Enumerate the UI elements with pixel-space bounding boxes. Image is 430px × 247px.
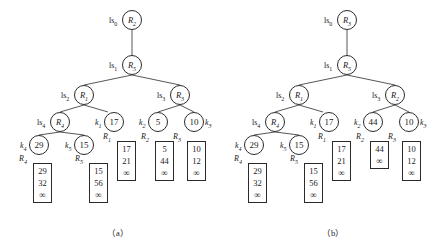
list-label-b-list-r4: R4 — [234, 154, 242, 165]
tree-edge — [373, 105, 395, 112]
list-box-b-list-r4: 2932∞ — [248, 163, 267, 203]
node-b-internal-r1: R1 — [289, 85, 309, 105]
node-b-leaf-44: 44 — [363, 112, 383, 132]
tree-edge — [180, 105, 194, 112]
node-b-leaf-15: 15 — [289, 135, 309, 155]
node-a-internal-r4: R4 — [50, 112, 70, 132]
node-b-root: R3 — [337, 10, 357, 30]
list-cell: 15 — [305, 165, 322, 177]
node-label-a-level1: ls1 — [109, 61, 117, 72]
node-label-a-leaf-17: k1 — [95, 118, 102, 129]
node-a-internal-r3: R3 — [170, 85, 190, 105]
tree-edge — [84, 105, 108, 112]
tree-edge — [395, 105, 409, 112]
node-label-b-leaf-10: k3 — [420, 118, 427, 129]
list-label-a-list-r4: R4 — [19, 154, 27, 165]
list-label-b-list-r3: R3 — [388, 132, 396, 143]
node-b-internal-r2: R2 — [385, 85, 405, 105]
tree-edge — [299, 105, 323, 112]
node-label-b-internal-r1: ls2 — [276, 91, 284, 102]
node-label-a-internal-r4: ls4 — [37, 118, 45, 129]
caption-a: （a） — [107, 226, 129, 238]
list-cell: 44 — [156, 155, 173, 167]
list-box-b-list-r1: 1721∞ — [332, 141, 351, 181]
list-cell: ∞ — [249, 189, 266, 201]
list-label-b-list-r2: R2 — [356, 132, 364, 143]
node-label-b-internal-r4: ls4 — [252, 118, 260, 129]
list-cell: 29 — [34, 165, 51, 177]
node-label-b-root: ls0 — [324, 16, 332, 27]
node-label-a-internal-r1: ls2 — [61, 91, 69, 102]
list-label-a-list-r3: R3 — [173, 132, 181, 143]
tree-edge — [158, 105, 180, 112]
list-cell: 21 — [118, 155, 135, 167]
tree-edge — [299, 75, 347, 85]
list-cell: 12 — [403, 155, 420, 167]
list-box-a-list-r4: 2932∞ — [33, 163, 52, 203]
list-cell: ∞ — [403, 167, 420, 179]
node-a-leaf-29: 29 — [29, 135, 49, 155]
node-label-b-leaf-44: k2 — [354, 118, 361, 129]
node-label-b-internal-r2: ls3 — [372, 91, 380, 102]
caption-b: （b） — [322, 226, 344, 238]
list-box-b-list-r2: 44∞ — [370, 141, 389, 169]
node-label-b-leaf-17: k1 — [310, 118, 317, 129]
list-cell: 15 — [90, 165, 107, 177]
node-b-internal-r4: R4 — [265, 112, 285, 132]
list-cell: 17 — [333, 143, 350, 155]
list-cell: 29 — [249, 165, 266, 177]
node-b-leaf-17: 17 — [319, 112, 339, 132]
list-cell: ∞ — [333, 167, 350, 179]
node-label-a-root: ls0 — [109, 16, 117, 27]
list-cell: 56 — [90, 177, 107, 189]
node-label-b-level1: ls1 — [324, 61, 332, 72]
tree-edge — [60, 105, 84, 112]
node-a-leaf-17: 17 — [104, 112, 124, 132]
node-a-leaf-10: 10 — [184, 112, 204, 132]
list-box-a-list-r2: 544∞ — [155, 141, 174, 181]
list-cell: 10 — [403, 143, 420, 155]
node-a-internal-r1: R1 — [74, 85, 94, 105]
list-cell: ∞ — [371, 155, 388, 167]
node-label-b-leaf-15: k5 — [280, 141, 287, 152]
list-cell: 17 — [118, 143, 135, 155]
loser-tree-figure: R2ls0R5ls1R1ls2R3ls3R4ls417k15k210k329k4… — [0, 0, 430, 247]
node-a-leaf-15: 15 — [74, 135, 94, 155]
list-cell: ∞ — [305, 189, 322, 201]
list-box-b-list-r3: 1012∞ — [402, 141, 421, 181]
list-box-b-list-r5: 1556∞ — [304, 163, 323, 203]
node-label-a-leaf-15: k5 — [65, 141, 72, 152]
node-label-b-leaf-29: k4 — [235, 141, 242, 152]
list-label-a-list-r2: R2 — [141, 132, 149, 143]
tree-edge — [84, 75, 132, 85]
list-cell: 21 — [333, 155, 350, 167]
tree-edge — [132, 75, 180, 85]
list-cell: ∞ — [90, 189, 107, 201]
node-label-a-leaf-10: k3 — [205, 118, 212, 129]
node-b-level1: R5 — [337, 55, 357, 75]
list-cell: ∞ — [118, 167, 135, 179]
list-label-a-list-r1: R1 — [103, 132, 111, 143]
list-cell: ∞ — [156, 167, 173, 179]
node-a-leaf-5: 5 — [148, 112, 168, 132]
list-cell: 12 — [188, 155, 205, 167]
node-label-a-leaf-29: k4 — [20, 141, 27, 152]
list-label-a-list-r5: R5 — [75, 154, 83, 165]
node-a-root: R2 — [122, 10, 142, 30]
node-b-leaf-29: 29 — [244, 135, 264, 155]
list-cell: 32 — [34, 177, 51, 189]
list-cell: 10 — [188, 143, 205, 155]
list-label-b-list-r1: R1 — [318, 132, 326, 143]
list-cell: 44 — [371, 143, 388, 155]
list-label-b-list-r5: R5 — [290, 154, 298, 165]
list-cell: 56 — [305, 177, 322, 189]
tree-edge — [347, 75, 395, 85]
list-cell: ∞ — [188, 167, 205, 179]
node-a-level1: R5 — [122, 55, 142, 75]
node-label-a-leaf-5: k2 — [139, 118, 146, 129]
tree-edge — [275, 105, 299, 112]
list-cell: 5 — [156, 143, 173, 155]
node-b-leaf-10: 10 — [399, 112, 419, 132]
list-box-a-list-r1: 1721∞ — [117, 141, 136, 181]
list-cell: 32 — [249, 177, 266, 189]
